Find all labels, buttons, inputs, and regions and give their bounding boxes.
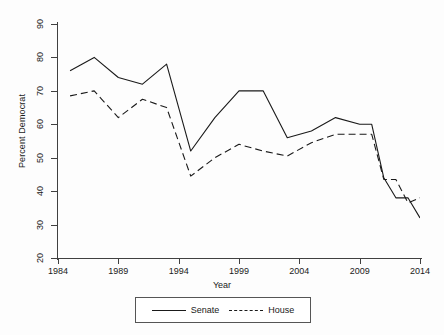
x-tick-mark bbox=[239, 259, 240, 264]
x-axis-title: Year bbox=[0, 280, 444, 290]
plot-area bbox=[58, 24, 420, 258]
x-tick-mark bbox=[118, 259, 119, 264]
x-tick-label: 1994 bbox=[157, 266, 201, 276]
legend-label: House bbox=[268, 305, 294, 315]
x-tick-mark bbox=[58, 259, 59, 264]
x-tick-mark bbox=[179, 259, 180, 264]
legend-entry-house[interactable]: House bbox=[229, 305, 294, 315]
y-tick-label: 50 bbox=[30, 152, 50, 164]
chart-legend: SenateHouse bbox=[135, 297, 311, 323]
y-tick-label: 60 bbox=[30, 118, 50, 130]
series-lines bbox=[58, 24, 420, 258]
y-axis-title-text: Percent Democrat bbox=[17, 94, 27, 168]
x-tick-label: 2004 bbox=[277, 266, 321, 276]
y-tick-label: 80 bbox=[30, 51, 50, 63]
y-tick-label: 20 bbox=[30, 252, 50, 264]
y-tick-label: 90 bbox=[30, 18, 50, 30]
y-axis-title: Percent Democrat bbox=[14, 0, 30, 262]
series-line-house bbox=[70, 91, 420, 203]
x-tick-mark bbox=[420, 259, 421, 264]
x-tick-label: 1999 bbox=[217, 266, 261, 276]
x-tick-label: 2014 bbox=[398, 266, 442, 276]
line-chart-figure: Percent Democrat 2030405060708090 198419… bbox=[0, 0, 444, 335]
y-tick-label: 30 bbox=[30, 219, 50, 231]
legend-swatch-house bbox=[229, 310, 263, 311]
y-tick-label: 40 bbox=[30, 185, 50, 197]
legend-entry-senate[interactable]: Senate bbox=[152, 305, 220, 315]
x-tick-mark bbox=[299, 259, 300, 264]
x-tick-label: 1984 bbox=[36, 266, 80, 276]
x-axis-title-text: Year bbox=[213, 280, 231, 290]
series-line-senate bbox=[70, 57, 420, 217]
legend-swatch-senate bbox=[152, 310, 186, 311]
x-tick-label: 2009 bbox=[338, 266, 382, 276]
y-tick-label: 70 bbox=[30, 85, 50, 97]
legend-label: Senate bbox=[191, 305, 220, 315]
x-tick-mark bbox=[360, 259, 361, 264]
x-tick-label: 1989 bbox=[96, 266, 140, 276]
